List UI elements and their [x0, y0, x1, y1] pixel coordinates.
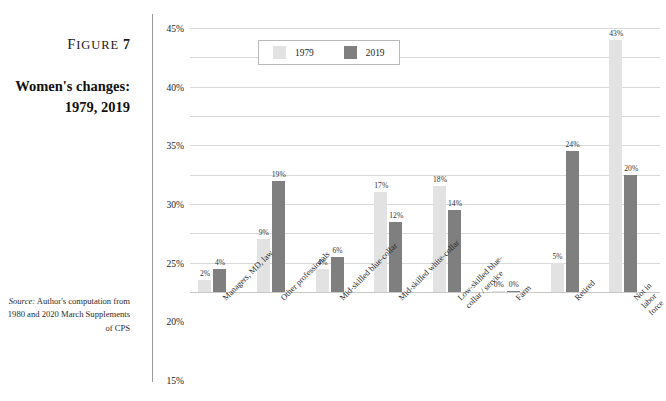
legend-label: 1979 [295, 48, 314, 58]
legend-label: 2019 [366, 48, 385, 58]
legend-swatch-icon [273, 46, 286, 59]
bar-2019[interactable] [566, 151, 579, 292]
source-note: Source: Author's computation from 1980 a… [0, 295, 130, 335]
plot-area: 45%40%35%30%25%20%15%10%5%0%2%4%9%19%4%6… [190, 28, 660, 292]
bar-2019[interactable] [272, 181, 285, 292]
source-label: Source: [9, 296, 35, 306]
figure-number-value: 7 [123, 37, 130, 52]
bar-1979[interactable] [551, 263, 564, 292]
caption-column: FIGURE 7 Women's changes: 1979, 2019 Sou… [0, 0, 148, 401]
bar-1979[interactable] [198, 280, 211, 292]
bar-2019[interactable] [213, 269, 226, 292]
bar-value-label: 17% [364, 181, 398, 190]
bar-group: 43%20% [601, 28, 660, 292]
bar-value-label: 4% [203, 258, 237, 267]
bar-1979[interactable] [374, 192, 387, 292]
legend-item-2019[interactable]: 2019 [344, 46, 385, 59]
bar-chart: 45%40%35%30%25%20%15%10%5%0%2%4%9%19%4%6… [148, 0, 666, 401]
bar-value-label: 18% [423, 175, 457, 184]
bar-group: 4%6% [308, 28, 367, 292]
bar-value-label: 20% [614, 164, 648, 173]
bar-2019[interactable] [624, 175, 637, 292]
bar-group: 0%0% [484, 28, 543, 292]
y-axis-tick-label: 40% [166, 81, 184, 92]
bar-group: 5%24% [543, 28, 602, 292]
bar-value-label: 43% [599, 29, 633, 38]
y-axis-tick-label: 20% [166, 316, 184, 327]
legend-item-1979[interactable]: 1979 [273, 46, 314, 59]
bar-group: 2%4% [190, 28, 249, 292]
bar-1979[interactable] [492, 291, 505, 293]
chart-legend: 19792019 [258, 40, 400, 65]
y-axis-tick-label: 30% [166, 199, 184, 210]
figure-title: Women's changes: 1979, 2019 [0, 76, 130, 118]
y-axis-tick-label: 25% [166, 257, 184, 268]
figure-page: FIGURE 7 Women's changes: 1979, 2019 Sou… [0, 0, 666, 401]
figure-word: FIGURE [67, 38, 119, 52]
y-axis-tick-label: 15% [166, 375, 184, 386]
bar-value-label: 24% [556, 140, 590, 149]
bar-value-label: 12% [379, 211, 413, 220]
bar-2019[interactable] [331, 257, 344, 292]
bar-value-label: 19% [262, 170, 296, 179]
legend-swatch-icon [344, 46, 357, 59]
y-axis-tick-label: 45% [166, 23, 184, 34]
figure-number-label: FIGURE 7 [0, 36, 130, 53]
bar-value-label: 14% [438, 199, 472, 208]
y-axis-tick-label: 35% [166, 140, 184, 151]
bar-group: 9%19% [249, 28, 308, 292]
x-axis-labels: Managers, MD, lawOther professionalsMid-… [190, 296, 660, 396]
